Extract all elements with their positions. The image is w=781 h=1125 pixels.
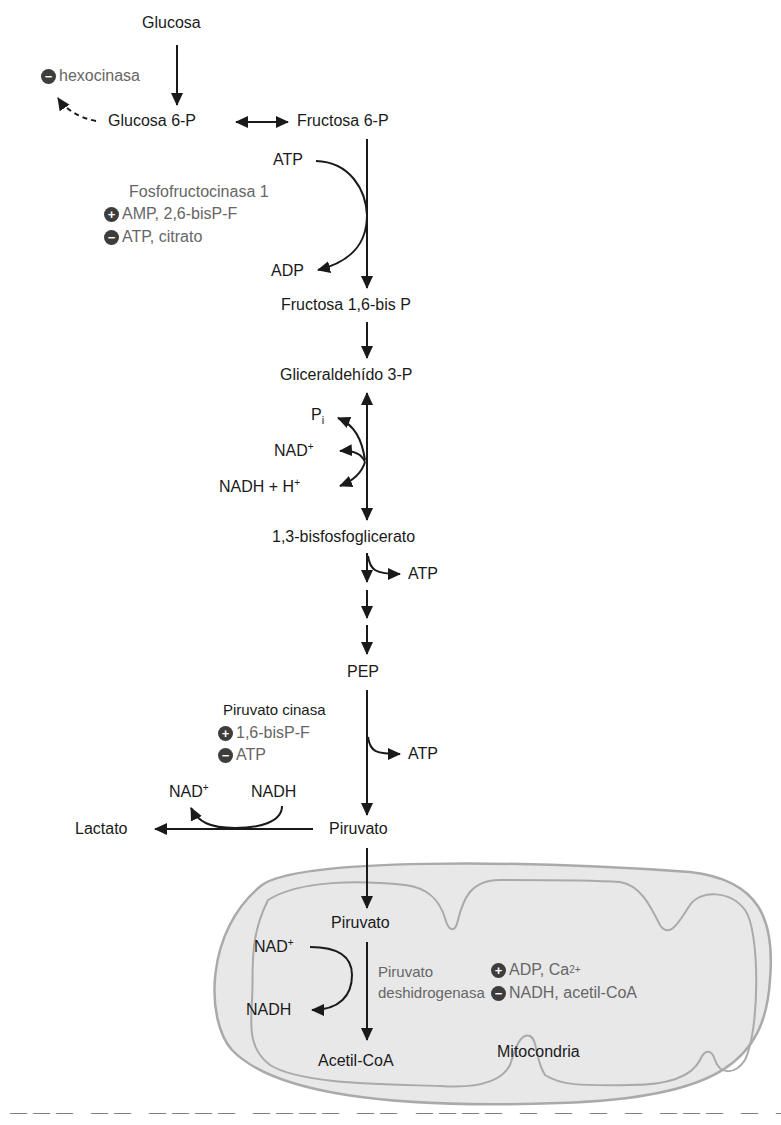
- regulator-pk-inhibitors: − ATP: [218, 745, 266, 765]
- metabolite-13bpg: 1,3-bisfosfoglicerato: [272, 528, 415, 546]
- cofactor-ldh-nadh: NADH: [251, 783, 296, 801]
- arrow-pk-atp: [368, 737, 400, 754]
- cofactor-pfk-adp: ADP: [271, 262, 304, 280]
- clipped-caption-text: ▔▔▔ ▔▔ ▔▔▔▔ ▔▔▔▔ ▔▔ ▔▔▔▔ ▔ ▔ ▔ ▔ ▔▔▔ ▔ ▔…: [0, 1113, 781, 1125]
- arrow-pfk-atp-adp: [316, 161, 367, 270]
- arrow-g6p-inhibits-hexokinase: [58, 98, 96, 121]
- cofactor-ldh-nad: NAD+: [169, 783, 209, 801]
- metabolite-pyruvate: Piruvato: [329, 820, 388, 838]
- enzyme-pdh-name-line1: Piruvato: [378, 962, 433, 982]
- metabolite-pyruvate-mito: Piruvato: [331, 914, 390, 932]
- regulator-pfk1-inhibitors: − ATP, citrato: [104, 227, 202, 247]
- cofactor-pdh-nad: NAD+: [254, 938, 294, 956]
- arrow-pgk-atp: [368, 556, 400, 574]
- cofactor-pfk-atp: ATP: [273, 151, 303, 169]
- regulator-pk-activators: + 1,6-bisP-F: [218, 723, 310, 743]
- minus-badge-icon: −: [104, 230, 119, 245]
- cofactor-gapdh-pi: Pi: [311, 406, 324, 424]
- metabolite-fructose-6p: Fructosa 6-P: [297, 112, 389, 130]
- cofactor-gapdh-nad: NAD+: [274, 442, 314, 460]
- cofactor-pgk-atp: ATP: [408, 565, 438, 583]
- plus-badge-icon: +: [218, 726, 233, 741]
- arrow-gapdh-nadh: [340, 462, 365, 486]
- enzyme-pyruvate-kinase-name: Piruvato cinasa: [223, 700, 326, 720]
- regulator-pdh-inhibitors: − NADH, acetil-CoA: [491, 983, 637, 1003]
- regulator-pfk1-activators: + AMP, 2,6-bisP-F: [104, 204, 237, 224]
- organelle-label-mitochondria: Mitocondria: [497, 1043, 580, 1061]
- regulator-pdh-activators: + ADP, Ca2+: [491, 960, 581, 980]
- plus-badge-icon: +: [491, 963, 506, 978]
- arrow-gapdh-nad: [340, 451, 365, 462]
- cofactor-gapdh-nadh: NADH + H+: [219, 478, 300, 496]
- metabolite-lactate: Lactato: [75, 820, 127, 838]
- regulator-hexokinase: − hexocinasa: [41, 66, 140, 86]
- cofactor-pdh-nadh: NADH: [246, 1001, 291, 1019]
- glycolysis-diagram: [0, 0, 781, 1125]
- minus-badge-icon: −: [218, 748, 233, 763]
- enzyme-pfk1-name: Fosfofructocinasa 1: [129, 182, 269, 202]
- metabolite-g3p: Gliceraldehído 3-P: [280, 366, 413, 384]
- metabolite-glucose: Glucosa: [142, 14, 201, 32]
- cofactor-pk-atp: ATP: [408, 745, 438, 763]
- minus-badge-icon: −: [491, 986, 506, 1001]
- arrow-ldh-nadh-nad: [191, 806, 282, 828]
- metabolite-acetylcoa: Acetil-CoA: [318, 1052, 394, 1070]
- minus-badge-icon: −: [41, 69, 56, 84]
- metabolite-pep: PEP: [347, 663, 379, 681]
- arrow-gapdh-pi: [338, 418, 365, 460]
- plus-badge-icon: +: [104, 207, 119, 222]
- enzyme-pdh-name-line2: deshidrogenasa: [378, 983, 485, 1003]
- clipped-caption: ▔▔▔ ▔▔ ▔▔▔▔ ▔▔▔▔ ▔▔ ▔▔▔▔ ▔ ▔ ▔ ▔ ▔▔▔ ▔ ▔…: [0, 1113, 781, 1125]
- metabolite-fructose-16bp: Fructosa 1,6-bis P: [281, 296, 411, 314]
- metabolite-glucose-6p: Glucosa 6-P: [108, 112, 196, 130]
